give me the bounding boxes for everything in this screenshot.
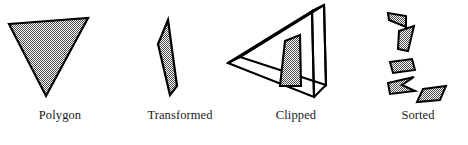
fragment-4: [388, 77, 415, 94]
sorted-artwork: [368, 0, 468, 110]
clipped-polygon: [280, 35, 301, 86]
polygon-artwork: [0, 0, 120, 110]
panel-polygon: Polygon: [0, 0, 120, 145]
transformed-polygon: [158, 20, 177, 95]
clipped-artwork: [228, 0, 364, 110]
fragment-3: [390, 59, 415, 73]
frustum-rail-back: [324, 5, 326, 85]
panel-label-clipped: Clipped: [228, 108, 364, 123]
panel-label-sorted: Sorted: [368, 108, 468, 123]
frustum-wireframe: [228, 5, 326, 97]
panel-label-transformed: Transformed: [120, 108, 240, 123]
panel-label-polygon: Polygon: [0, 108, 120, 123]
panel-clipped: Clipped: [228, 0, 364, 145]
frustum-rail-front: [312, 11, 314, 97]
panel-transformed: Transformed: [120, 0, 240, 145]
panel-sorted: Sorted: [368, 0, 468, 145]
frustum-edge-bottom: [314, 85, 326, 97]
pipeline-figure: Polygon Transformed: [0, 0, 468, 145]
fragment-5: [417, 86, 446, 102]
frustum-edge-apex: [228, 57, 240, 63]
transformed-artwork: [120, 0, 240, 110]
fragment-2: [398, 26, 414, 51]
fragment-1: [388, 13, 406, 27]
source-polygon: [9, 18, 88, 96]
frustum-edge-top: [312, 5, 324, 11]
